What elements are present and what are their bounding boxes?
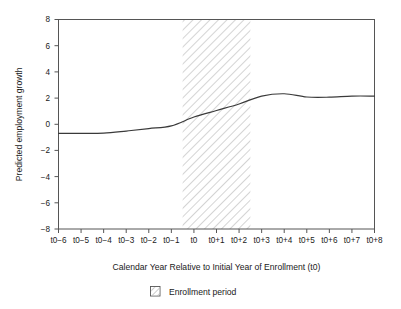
x-tick-label: t0 (191, 236, 198, 245)
legend-swatch-hatch-fill (151, 287, 159, 295)
x-tick-label: t0+6 (321, 236, 338, 245)
y-tick-label: −2 (41, 146, 51, 155)
x-tick-label: t0−5 (73, 236, 90, 245)
x-tick-label: t0+3 (254, 236, 271, 245)
x-tick-label: t0+4 (276, 236, 293, 245)
x-tick-label: t0−2 (141, 236, 158, 245)
x-tick-label: t0−6 (50, 236, 67, 245)
x-tick-label: t0+7 (344, 236, 361, 245)
chart-figure: 8 6 4 2 0 −2 −4 −6 −8 t0−6t0−5t0−4t0−3t0… (0, 0, 401, 309)
x-tick-label: t0−4 (96, 236, 113, 245)
x-axis-tick-labels: t0−6t0−5t0−4t0−3t0−2t0−1t0t0+1t0+2t0+3t0… (50, 236, 383, 245)
legend-label-enrollment-period: Enrollment period (169, 287, 237, 297)
y-tick-label: −4 (41, 173, 51, 182)
y-tick-label: 2 (45, 94, 50, 103)
y-axis-title: Predicted employment growth (14, 67, 24, 181)
x-tick-label: t0−3 (118, 236, 135, 245)
x-tick-label: t0+2 (231, 236, 248, 245)
y-tick-label: 0 (45, 120, 50, 129)
y-tick-label: 6 (45, 42, 50, 51)
x-tick-label: t0−1 (163, 236, 180, 245)
y-tick-label: −6 (41, 199, 51, 208)
enrollment-period-band (183, 20, 251, 230)
employment-growth-line-chart: 8 6 4 2 0 −2 −4 −6 −8 t0−6t0−5t0−4t0−3t0… (0, 0, 401, 309)
x-axis-title: Calendar Year Relative to Initial Year o… (113, 262, 321, 272)
y-tick-label: 8 (45, 15, 50, 24)
y-tick-label: 4 (45, 68, 50, 77)
x-tick-label: t0+5 (299, 236, 316, 245)
x-tick-label: t0+1 (208, 236, 225, 245)
enrollment-period-band-fill (183, 20, 251, 230)
x-tick-label: t0+8 (366, 236, 383, 245)
y-tick-label: −8 (41, 225, 51, 234)
